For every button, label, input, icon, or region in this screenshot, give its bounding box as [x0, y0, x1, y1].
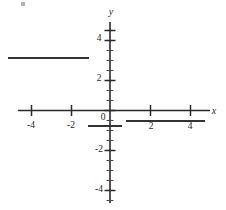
x-tick-label-4: 4 — [188, 121, 193, 131]
x-tick-label-neg4: -4 — [27, 120, 35, 130]
y-tick-label-neg2: -2 — [95, 144, 103, 154]
x-tick-label-neg2: -2 — [67, 120, 75, 130]
y-axis-group: 4 2 -2 -4 y — [95, 6, 115, 203]
y-axis-label: y — [108, 6, 114, 17]
x-tick-label-2: 2 — [149, 121, 154, 131]
x-axis-label: x — [211, 105, 217, 116]
y-tick-label-4: 4 — [97, 33, 102, 43]
y-tick-label-neg4: -4 — [95, 184, 103, 194]
origin-label: 0 — [101, 112, 106, 122]
x-axis-group: -4 -2 2 4 x — [18, 105, 217, 131]
step-function-series — [8, 58, 205, 126]
step-function-graph-figure: 4 2 -2 -4 y -4 -2 2 4 x 0 — [0, 0, 226, 210]
y-tick-label-2: 2 — [97, 73, 102, 83]
coordinate-plane-svg: 4 2 -2 -4 y -4 -2 2 4 x 0 — [0, 0, 226, 210]
